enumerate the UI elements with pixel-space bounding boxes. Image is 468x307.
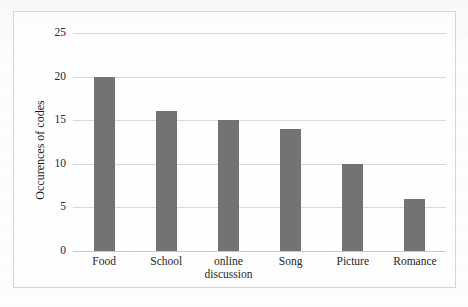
bar-series [73,33,446,251]
bar-slot-school [135,33,197,251]
bar-slot-picture [322,33,384,251]
x-tick-label-romance-line-0: Romance [384,255,446,268]
x-tick-label-school-line-0: School [135,255,197,268]
bar-slot-online-discussion [197,33,259,251]
x-tick-label-school: School [135,255,197,281]
y-tick-label-20: 20 [55,71,67,83]
y-tick-label-0: 0 [60,245,66,257]
bar-song[interactable] [280,129,301,251]
y-axis-title: Occurences of codes [33,100,48,199]
chart-plot-frame: Occurences of codes 25 20 15 10 5 0 [13,11,456,288]
bar-romance[interactable] [404,199,425,251]
bar-picture[interactable] [342,164,363,251]
bar-food[interactable] [94,77,115,251]
x-tick-label-picture: Picture [322,255,384,281]
x-tick-label-online-discussion: online discussion [197,255,259,281]
x-tick-label-picture-line-0: Picture [322,255,384,268]
plot-area: 25 20 15 10 5 0 [73,33,446,251]
y-tick-label-15: 15 [55,114,67,126]
x-tick-label-online-discussion-line-1: discussion [197,268,259,281]
bar-online-discussion[interactable] [218,120,239,251]
x-tick-label-online-discussion-line-0: online [197,255,259,268]
y-tick-label-10: 10 [55,158,67,170]
x-axis-labels: Food School online discussion Song Pictu… [73,255,446,281]
y-tick-label-5: 5 [60,202,66,214]
bar-slot-food [73,33,135,251]
x-tick-label-food-line-0: Food [73,255,135,268]
bar-slot-romance [384,33,446,251]
x-tick-label-romance: Romance [384,255,446,281]
x-tick-label-song: Song [260,255,322,281]
bar-slot-song [260,33,322,251]
bar-school[interactable] [156,111,177,251]
gridline-0-baseline: 0 [73,251,446,252]
x-tick-label-song-line-0: Song [260,255,322,268]
y-tick-label-25: 25 [55,27,67,39]
x-tick-label-food: Food [73,255,135,281]
